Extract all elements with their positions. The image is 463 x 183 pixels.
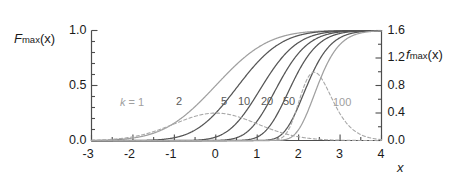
curves-group [92,31,382,141]
right-axis-title-argument: (x) [428,47,443,62]
left-axis-title-symbol: F [14,31,22,46]
x-tick-label-1: -2 [124,147,135,161]
x-tick-label-2: -1 [165,147,176,161]
curve-label-k-2: 2 [176,95,182,107]
y-left-tick-label-2: 1.0 [69,23,86,37]
y-right-tick-label-4: 1.6 [388,23,405,37]
y-right-tick-label-1: 0.4 [388,105,405,119]
y-right-tick-label-2: 0.8 [388,78,405,92]
left-axis-title-argument: (x) [40,31,55,46]
curve-label-k-20: 20 [261,95,273,107]
x-tick-label-0: -3 [83,147,94,161]
density-curve-k-1 [92,113,382,140]
x-tick-label-5: 2 [295,147,302,161]
cdf-curve-k-100 [92,31,382,141]
x-tick-label-7: 4 [378,147,385,161]
curve-label-k-50: 50 [283,95,295,107]
left-axis-title-subscript: max [22,34,40,45]
right-axis-title-subscript: max [410,50,428,61]
curve-label-k-10: 10 [238,95,250,107]
y-right-tick-label-3: 1.2 [388,50,405,64]
y-left-tick-label-0: 0.0 [69,133,86,147]
x-tick-label-4: 1 [253,147,260,161]
x-axis-title: x [397,160,404,175]
curve-label-k-5: 5 [221,95,227,107]
y-right-tick-label-0: 0.0 [388,133,405,147]
curve-label-k-100: 100 [333,96,351,108]
figure-gumbel-maxima-plot: Fmax(x) fmax(x) x -3-2-1012340.00.51.00.… [0,0,463,183]
left-axis-title: Fmax(x) [14,31,55,46]
x-tick-label-3: 0 [212,147,219,161]
curve-label-value: = 1 [126,96,145,108]
curve-label-k-1: k = 1 [120,96,144,108]
right-axis-title: fmax(x) [406,47,443,62]
y-left-tick-label-1: 0.5 [69,78,86,92]
x-tick-label-6: 3 [336,147,343,161]
